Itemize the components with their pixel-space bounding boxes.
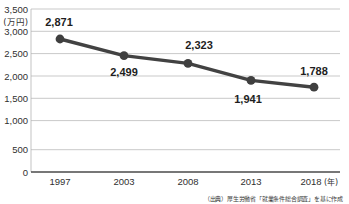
x-tick-label: 2008 [177,176,198,187]
data-point [247,76,256,85]
x-axis-unit-label: (年) [324,177,338,187]
y-tick-label: 500 [12,144,28,155]
data-point [56,35,65,44]
chart-canvas: 3,500 (万円) 3,000 2,500 2,000 1,500 1,000… [0,0,349,204]
data-value-label: 2,323 [185,39,213,51]
data-value-label: 1,941 [234,93,262,105]
data-value-label: 1,788 [300,65,328,77]
y-tick-label: 2,000 [4,71,28,82]
x-tick-label: 2003 [113,176,134,187]
y-tick-label: 3,500 [4,4,28,15]
x-tick-label: 1997 [49,176,70,187]
x-tick-label: 2013 [240,176,261,187]
x-tick-label: 2018 [300,176,321,187]
gridlines [31,9,340,150]
y-tick-label: 3,000 [4,26,28,37]
y-tick-label: 2,500 [4,48,28,59]
data-value-label: 2,871 [45,16,73,28]
data-point [184,59,193,68]
y-tick-label: 1,500 [4,93,28,104]
source-note: （出典）厚生労働省「就業条件総合調査」を基に作成 [204,195,343,203]
data-value-label: 2,499 [110,66,138,78]
data-point [310,83,319,92]
line-chart: 3,500 (万円) 3,000 2,500 2,000 1,500 1,000… [0,0,349,204]
data-point [120,51,129,60]
y-tick-label: 1,000 [4,115,28,126]
y-tick-label: 0 [23,167,28,178]
